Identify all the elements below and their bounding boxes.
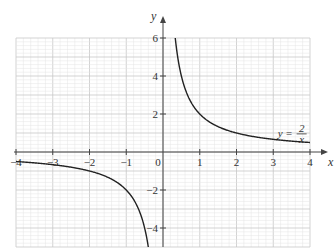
y-tick-label: 2 [153,108,159,120]
x-axis-label: x [327,155,334,169]
x-tick-label: 4 [307,156,313,168]
x-tick-label: −3 [47,156,59,168]
chart-figure: −4−3−2−101234−4−2246 x y y = 2 x [0,0,336,251]
y-tick-label: 6 [153,32,159,44]
equation-lhs: y = [277,127,293,139]
x-tick-label: −2 [84,156,96,168]
y-tick-label: 4 [153,70,159,82]
y-axis-label: y [150,9,157,23]
y-tick-label: −2 [146,184,158,196]
x-tick-label: −1 [120,156,132,168]
x-tick-label: 2 [234,156,240,168]
x-tick-label: 3 [271,156,277,168]
y-tick-label: −4 [146,222,158,234]
x-tick-label: −4 [10,156,22,168]
equation-denominator: x [298,133,304,145]
x-tick-label: 1 [197,156,203,168]
x-tick-label: 0 [155,156,161,168]
